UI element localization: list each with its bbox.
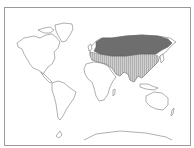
world-map [0, 0, 194, 148]
landmass-central-america [41, 72, 52, 83]
landmass-indonesia [140, 84, 158, 90]
landmass-south-america [52, 81, 76, 120]
landmass-japan [160, 54, 164, 63]
landmass-madagascar [113, 89, 115, 96]
landmass-australia [146, 92, 168, 110]
landmass-north-america [17, 34, 60, 75]
landmass-antarctic-peninsula [56, 131, 62, 138]
landmass-arctic-archipelago [38, 27, 54, 33]
landmass-antarctica [84, 131, 172, 140]
landmass-new-zealand [171, 108, 174, 116]
landmass-africa [84, 62, 116, 101]
